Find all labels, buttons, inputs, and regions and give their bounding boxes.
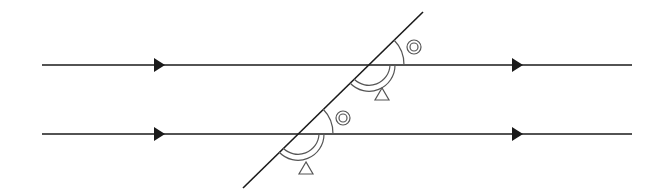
angle-arc-upper-obtuse-outer xyxy=(350,65,395,91)
parallel-lines-diagram xyxy=(0,0,662,196)
angle-arc-upper-acute xyxy=(394,40,404,65)
transversal-line xyxy=(243,12,423,188)
arrow-marker-icon xyxy=(154,58,165,72)
double-circle-inner xyxy=(410,43,418,51)
arrow-marker-icon xyxy=(154,127,165,141)
double-circle-icon xyxy=(407,40,421,54)
arrow-marker-icon xyxy=(512,58,523,72)
angle-arc-lower-acute xyxy=(323,109,333,134)
double-circle-icon xyxy=(336,111,350,125)
double-circle-inner xyxy=(339,114,347,122)
arrow-marker-icon xyxy=(512,127,523,141)
triangle-icon xyxy=(299,162,313,174)
